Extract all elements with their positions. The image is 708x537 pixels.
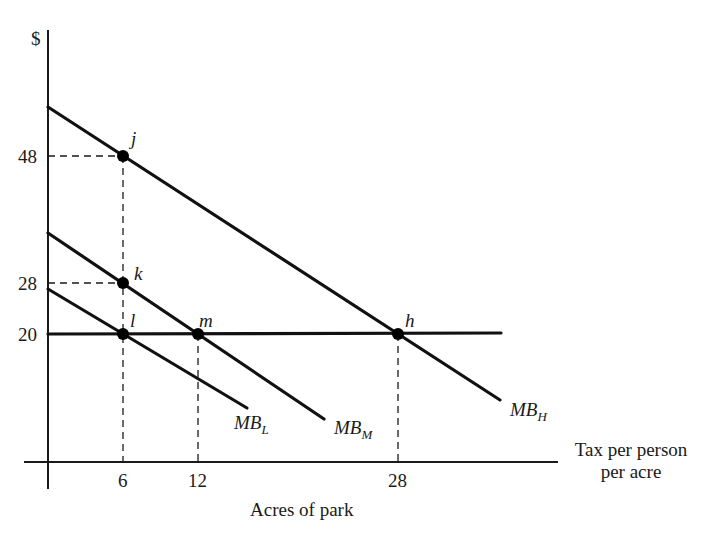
point-label-j: j xyxy=(131,129,136,148)
y-tick-20: 20 xyxy=(18,325,37,344)
mb-l-main: MB xyxy=(234,412,261,433)
curve-label-mb-h: MBH xyxy=(510,400,547,419)
point-label-m: m xyxy=(199,311,213,330)
tax-line-label-2: per acre xyxy=(566,462,696,481)
mb-m-sub: M xyxy=(361,427,372,442)
y-tick-28: 28 xyxy=(18,274,37,293)
tax-line xyxy=(48,333,501,334)
point-h xyxy=(392,328,404,340)
point-j xyxy=(117,150,129,162)
mb-h-main: MB xyxy=(510,399,537,420)
point-l xyxy=(117,328,129,340)
y-tick-48: 48 xyxy=(18,147,37,166)
mb-h-sub: H xyxy=(537,409,546,424)
mb-l-sub: L xyxy=(261,422,268,437)
tax-line-label-1: Tax per person xyxy=(566,440,696,459)
x-axis-label: Acres of park xyxy=(250,500,353,519)
mb-m-main: MB xyxy=(334,417,361,438)
point-label-k: k xyxy=(134,264,142,283)
point-label-l: l xyxy=(130,311,135,330)
x-tick-12: 12 xyxy=(188,471,207,490)
point-label-h: h xyxy=(405,311,415,330)
point-k xyxy=(117,277,129,289)
mb-h-curve xyxy=(48,107,500,400)
curve-label-mb-m: MBM xyxy=(334,418,372,437)
y-axis-label: $ xyxy=(31,29,41,48)
tax-line-label: Tax per person per acre xyxy=(566,440,696,481)
x-tick-6: 6 xyxy=(118,471,128,490)
x-tick-28: 28 xyxy=(388,471,407,490)
curve-label-mb-l: MBL xyxy=(234,413,269,432)
